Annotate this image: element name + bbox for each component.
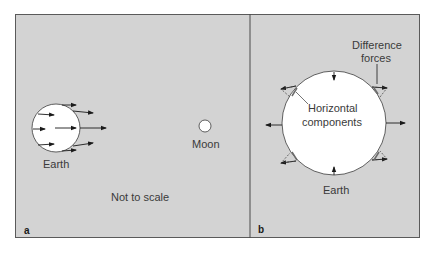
difference-forces-label-2: forces xyxy=(361,52,391,64)
difference-forces-label-1: Difference xyxy=(352,39,402,51)
moon-circle xyxy=(199,120,211,132)
panel-b-letter: b xyxy=(258,224,264,235)
earth-label-b: Earth xyxy=(323,184,349,196)
moon-label: Moon xyxy=(192,138,220,150)
earth-label-a: Earth xyxy=(43,158,69,170)
horizontal-components-label-2: components xyxy=(302,116,362,128)
not-to-scale-note: Not to scale xyxy=(111,191,169,203)
horizontal-components-label-1: Horizontal xyxy=(308,102,358,114)
panel-a-letter: a xyxy=(24,225,30,236)
tidal-forces-figure: Earth Moon Not to scale a xyxy=(0,0,433,254)
